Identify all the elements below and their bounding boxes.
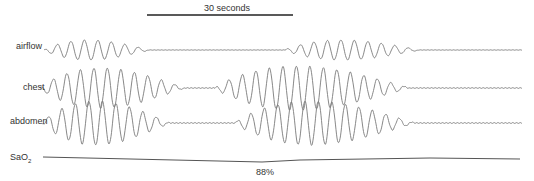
- label-airflow: airflow: [16, 41, 42, 51]
- sao2-nadir-label: 88%: [256, 167, 274, 177]
- label-chest: chest: [23, 82, 45, 92]
- label-abdomen: abdomen: [10, 116, 48, 126]
- polysomnography-figure: 30 seconds airflow chest abdomen SaO2 88…: [0, 0, 534, 181]
- label-sao2: SaO2: [10, 152, 31, 164]
- traces: [0, 0, 534, 181]
